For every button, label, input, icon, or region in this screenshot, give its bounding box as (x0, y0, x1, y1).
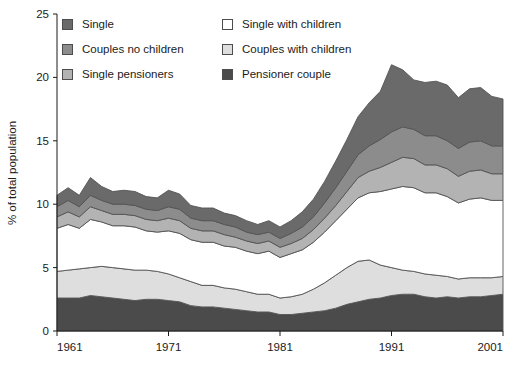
y-tick-label: 15 (36, 135, 49, 147)
area-series-group (57, 65, 503, 331)
y-tick-label-group: 0510152025 (36, 8, 49, 337)
y-tick-label: 5 (43, 262, 49, 274)
stacked-area-chart: 0510152025 19611971198119912001 % of tot… (0, 0, 518, 367)
x-tick-label-group: 19611971198119912001 (57, 341, 503, 353)
x-tick-label: 2001 (477, 341, 503, 353)
x-tick-label: 1971 (156, 341, 182, 353)
chart-container: 0510152025 19611971198119912001 % of tot… (0, 0, 518, 367)
x-tick-label: 1981 (267, 341, 293, 353)
y-tick-label: 0 (43, 325, 49, 337)
y-axis-label: % of total population (6, 121, 18, 225)
y-tick-label: 25 (36, 8, 49, 20)
y-tick-label: 20 (36, 71, 49, 83)
y-tick-label: 10 (36, 198, 49, 210)
x-tick-label: 1961 (57, 341, 83, 353)
x-tick-label: 1991 (379, 341, 405, 353)
